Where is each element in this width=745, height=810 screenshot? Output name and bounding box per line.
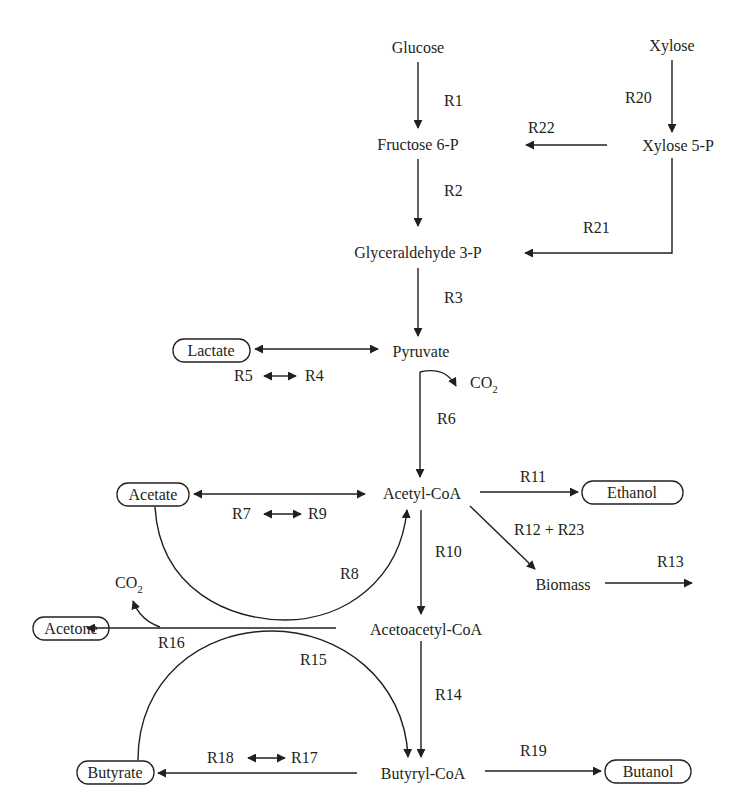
metabolite-butyryl-coa: Butyryl-CoA	[381, 765, 466, 783]
arrow-r21	[525, 158, 672, 253]
reaction-label-r14: R14	[435, 686, 462, 703]
byproduct-co2-acetone: CO2	[115, 574, 143, 595]
metabolite-xylose-5p: Xylose 5-P	[642, 137, 714, 155]
reaction-label-r10: R10	[435, 543, 462, 560]
reaction-label-r1: R1	[444, 92, 463, 109]
reaction-label-r15: R15	[300, 651, 327, 668]
metabolite-butyrate: Butyrate	[87, 764, 142, 782]
reaction-label-r17: R17	[291, 749, 318, 766]
arrow-co2-acetone	[133, 601, 160, 627]
reaction-label-r21: R21	[583, 219, 610, 236]
reaction-label-r5: R5	[234, 367, 253, 384]
reaction-label-r22: R22	[528, 119, 555, 136]
reaction-label-r13: R13	[657, 553, 684, 570]
metabolite-acetone: Acetone	[44, 620, 97, 637]
reaction-label-r16: R16	[158, 634, 185, 651]
reaction-label-r19: R19	[520, 742, 547, 759]
reaction-label-r6: R6	[437, 410, 456, 427]
metabolite-biomass: Biomass	[535, 576, 590, 593]
metabolite-pyruvate: Pyruvate	[393, 343, 450, 361]
reaction-label-r20: R20	[625, 89, 652, 106]
metabolite-glyceraldehyde-3p: Glyceraldehyde 3-P	[354, 244, 482, 262]
byproduct-co2-pyruvate: CO2	[470, 374, 498, 395]
metabolite-acetoacetyl-coa: Acetoacetyl-CoA	[370, 621, 482, 639]
metabolite-ethanol: Ethanol	[607, 484, 657, 501]
reaction-label-r12-r23: R12 + R23	[514, 521, 584, 538]
reaction-label-r7: R7	[232, 505, 251, 522]
metabolite-butanol: Butanol	[623, 763, 674, 780]
metabolic-pathway-diagram: Glucose R1 Fructose 6-P R2 Glyceraldehyd…	[0, 0, 745, 810]
metabolite-xylose: Xylose	[649, 37, 694, 55]
metabolite-acetyl-coa: Acetyl-CoA	[383, 485, 462, 503]
reaction-label-r8: R8	[340, 565, 359, 582]
reaction-label-r2: R2	[444, 182, 463, 199]
reaction-label-r4: R4	[305, 367, 324, 384]
metabolite-lactate: Lactate	[187, 342, 234, 359]
metabolite-acetate: Acetate	[129, 486, 178, 503]
reaction-label-r9: R9	[308, 505, 327, 522]
reaction-label-r3: R3	[444, 289, 463, 306]
reaction-label-r11: R11	[520, 468, 546, 485]
metabolite-fructose-6p: Fructose 6-P	[377, 136, 458, 153]
metabolite-glucose: Glucose	[392, 39, 444, 56]
arrow-r8	[155, 507, 407, 620]
arrow-co2-pyruvate	[420, 371, 456, 386]
reaction-label-r18: R18	[207, 749, 234, 766]
